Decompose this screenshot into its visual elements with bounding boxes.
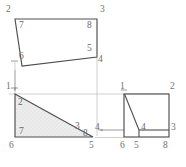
front-view-label-2: 2 — [18, 98, 23, 108]
top-view-label-5: 5 — [87, 44, 92, 54]
front-view-label-3: 3 — [75, 122, 80, 132]
top-view-label-8: 8 — [87, 21, 92, 31]
side-view-label-6: 6 — [120, 141, 125, 151]
front-view — [15, 94, 93, 137]
front-view-label-6: 6 — [9, 141, 14, 151]
top-view-outline — [15, 19, 97, 66]
side-view-label-2: 2 — [170, 82, 175, 92]
front-view-label-5: 5 — [89, 141, 94, 151]
top-view — [15, 19, 97, 66]
top-view-label-2: 2 — [6, 5, 11, 15]
side-view — [124, 94, 169, 137]
front-view-label-8: 8 — [83, 129, 88, 139]
front-view-label-4: 4 — [95, 123, 100, 133]
front-view-label-7: 7 — [19, 127, 24, 137]
top-view-label-6: 6 — [19, 52, 24, 62]
side-view-label-3: 3 — [171, 123, 176, 133]
top-view-label-3: 3 — [100, 5, 105, 15]
technical-drawing-sheet: 7 8 5 6 2 3 4 2 3 8 7 1 4 6 5 4 1 2 3 6 … — [0, 0, 186, 167]
side-view-label-5: 5 — [134, 141, 139, 151]
front-view-label-1: 1 — [6, 82, 11, 92]
top-view-label-7: 7 — [19, 21, 24, 31]
side-view-label-8: 8 — [163, 141, 168, 151]
top-view-label-4: 4 — [98, 55, 103, 65]
side-view-label-4: 4 — [141, 123, 146, 133]
side-view-label-1: 1 — [120, 82, 125, 92]
